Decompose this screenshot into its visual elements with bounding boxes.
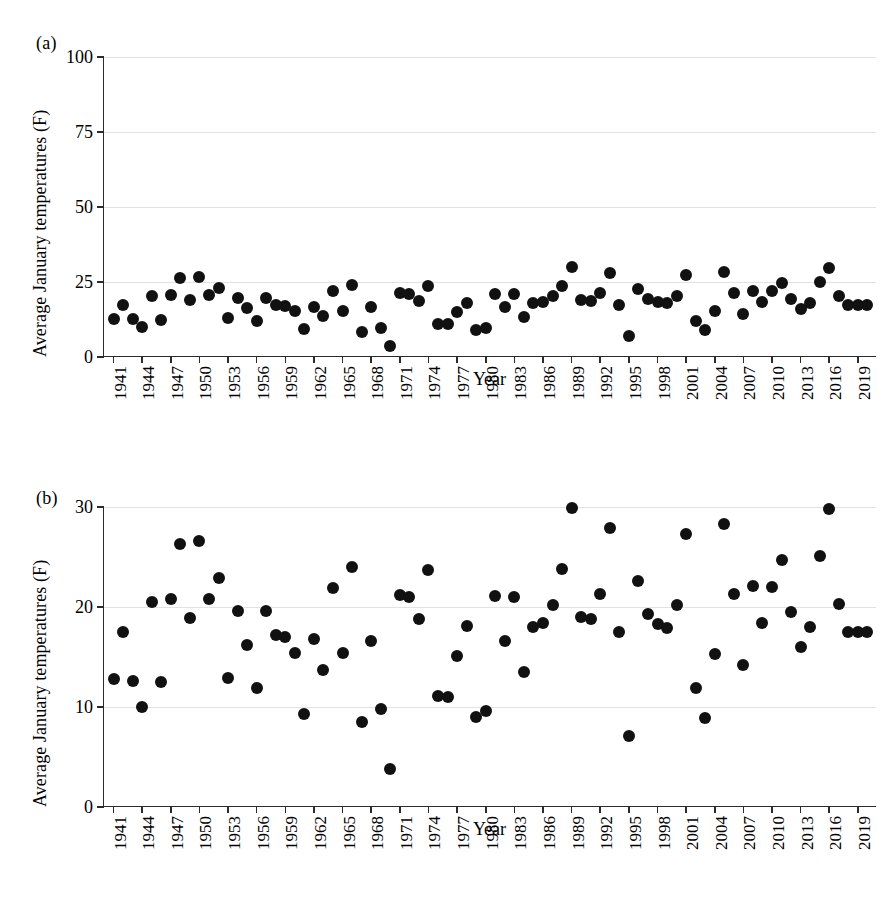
x-tick-mark bbox=[113, 806, 115, 813]
data-point bbox=[699, 324, 711, 336]
panel-b: (b) Average January temperatures (F) 010… bbox=[0, 455, 889, 923]
panel-b-plot-area: 0102030194119441947195019531956195919621… bbox=[103, 507, 876, 807]
y-tick-label: 100 bbox=[66, 48, 93, 66]
data-point bbox=[671, 599, 683, 611]
x-tick-mark bbox=[542, 806, 544, 813]
x-tick-mark bbox=[399, 356, 401, 363]
data-point bbox=[556, 280, 568, 292]
y-tick-mark bbox=[97, 506, 104, 508]
data-point bbox=[165, 593, 177, 605]
data-point bbox=[308, 633, 320, 645]
data-point bbox=[814, 276, 826, 288]
data-point bbox=[823, 262, 835, 274]
data-point bbox=[632, 575, 644, 587]
data-point bbox=[718, 518, 730, 530]
x-tick-mark bbox=[256, 356, 258, 363]
x-tick-mark bbox=[285, 356, 287, 363]
data-point bbox=[136, 321, 148, 333]
data-point bbox=[165, 289, 177, 301]
x-tick-mark bbox=[657, 356, 659, 363]
panel-a-x-axis-title: Year bbox=[103, 370, 876, 388]
x-tick-mark bbox=[571, 806, 573, 813]
panel-b-x-axis-title: Year bbox=[103, 820, 876, 838]
data-point bbox=[442, 691, 454, 703]
x-tick-mark bbox=[141, 356, 143, 363]
x-tick-mark bbox=[628, 356, 630, 363]
x-tick-mark bbox=[599, 356, 601, 363]
x-tick-mark bbox=[685, 806, 687, 813]
data-point bbox=[671, 290, 683, 302]
x-tick-mark bbox=[771, 356, 773, 363]
data-point bbox=[604, 522, 616, 534]
data-point bbox=[861, 299, 873, 311]
x-tick-mark bbox=[227, 806, 229, 813]
data-point bbox=[346, 561, 358, 573]
x-tick-mark bbox=[514, 356, 516, 363]
data-point bbox=[690, 682, 702, 694]
data-point bbox=[193, 535, 205, 547]
data-point bbox=[833, 598, 845, 610]
x-tick-mark bbox=[743, 806, 745, 813]
data-point bbox=[489, 590, 501, 602]
data-point bbox=[756, 617, 768, 629]
data-point bbox=[337, 647, 349, 659]
data-point bbox=[108, 313, 120, 325]
gridline bbox=[104, 507, 876, 508]
y-tick-mark bbox=[97, 356, 104, 358]
data-point bbox=[508, 591, 520, 603]
data-point bbox=[222, 312, 234, 324]
data-point bbox=[566, 261, 578, 273]
data-point bbox=[623, 730, 635, 742]
data-point bbox=[365, 635, 377, 647]
data-point bbox=[547, 599, 559, 611]
data-point bbox=[317, 310, 329, 322]
data-point bbox=[184, 294, 196, 306]
y-tick-label: 20 bbox=[75, 598, 93, 616]
x-tick-mark bbox=[256, 806, 258, 813]
data-point bbox=[737, 659, 749, 671]
data-point bbox=[346, 279, 358, 291]
x-tick-mark bbox=[342, 806, 344, 813]
data-point bbox=[756, 296, 768, 308]
data-point bbox=[365, 301, 377, 313]
x-tick-mark bbox=[599, 806, 601, 813]
x-tick-mark bbox=[771, 806, 773, 813]
panel-b-y-axis-title: Average January temperatures (F) bbox=[30, 560, 51, 807]
data-point bbox=[155, 676, 167, 688]
data-point bbox=[403, 591, 415, 603]
data-point bbox=[356, 326, 368, 338]
data-point bbox=[613, 626, 625, 638]
y-tick-mark bbox=[97, 606, 104, 608]
data-point bbox=[613, 299, 625, 311]
gridline bbox=[104, 132, 876, 133]
data-point bbox=[155, 314, 167, 326]
y-tick-label: 10 bbox=[75, 698, 93, 716]
data-point bbox=[480, 322, 492, 334]
data-point bbox=[537, 617, 549, 629]
data-point bbox=[594, 588, 606, 600]
gridline bbox=[104, 207, 876, 208]
data-point bbox=[776, 554, 788, 566]
x-tick-mark bbox=[313, 806, 315, 813]
data-point bbox=[680, 269, 692, 281]
x-tick-mark bbox=[141, 806, 143, 813]
panel-a-letter: (a) bbox=[36, 34, 57, 52]
x-tick-mark bbox=[828, 806, 830, 813]
data-point bbox=[251, 315, 263, 327]
data-point bbox=[146, 290, 158, 302]
data-point bbox=[594, 287, 606, 299]
x-tick-mark bbox=[657, 806, 659, 813]
y-tick-label: 25 bbox=[75, 273, 93, 291]
data-point bbox=[728, 588, 740, 600]
x-tick-mark bbox=[313, 356, 315, 363]
x-tick-mark bbox=[199, 356, 201, 363]
y-tick-label: 0 bbox=[84, 348, 93, 366]
x-tick-mark bbox=[370, 356, 372, 363]
x-tick-mark bbox=[113, 356, 115, 363]
x-tick-mark bbox=[514, 806, 516, 813]
data-point bbox=[184, 612, 196, 624]
data-point bbox=[213, 572, 225, 584]
y-tick-label: 0 bbox=[84, 798, 93, 816]
data-point bbox=[241, 302, 253, 314]
data-point bbox=[489, 288, 501, 300]
